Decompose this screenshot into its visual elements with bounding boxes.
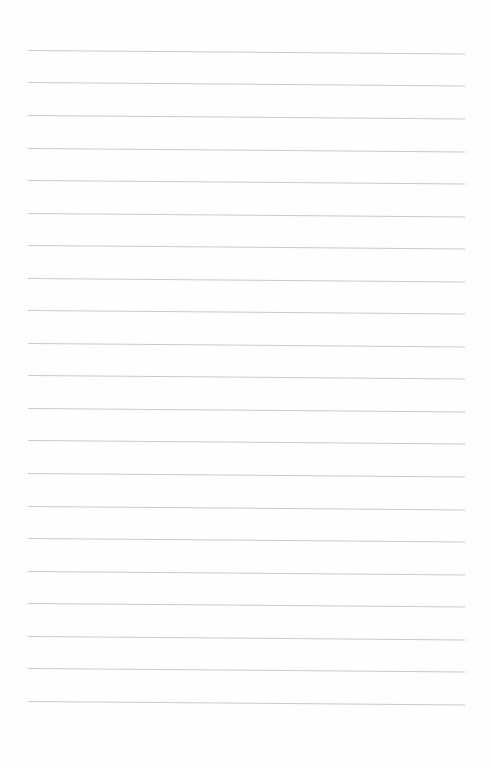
- ruled-line: [28, 180, 465, 184]
- ruled-line: [28, 278, 465, 282]
- ruled-line: [28, 440, 465, 444]
- lined-paper-page: [0, 0, 491, 768]
- ruled-line: [28, 668, 465, 672]
- ruled-line: [28, 538, 465, 542]
- ruled-line: [28, 408, 465, 412]
- ruled-line: [28, 701, 465, 705]
- ruled-line: [28, 473, 465, 477]
- ruled-line: [28, 506, 465, 510]
- ruled-line: [28, 213, 465, 217]
- ruled-line: [28, 343, 465, 347]
- ruled-line: [28, 82, 465, 86]
- ruled-line: [28, 636, 465, 640]
- ruled-line: [28, 50, 465, 54]
- ruled-line: [28, 375, 465, 379]
- ruled-line: [28, 115, 465, 119]
- ruled-line: [28, 245, 465, 249]
- ruled-line: [28, 148, 465, 152]
- ruled-line: [28, 603, 465, 607]
- ruled-line: [28, 310, 465, 314]
- ruled-line: [28, 571, 465, 575]
